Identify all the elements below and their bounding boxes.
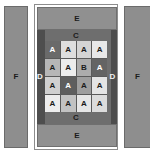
grid-cell-r3-c3: A	[77, 77, 92, 94]
bottom-bar-e: E	[37, 124, 117, 147]
grid-cell-r2-c2: A	[61, 59, 76, 76]
left-panel-label: F	[5, 7, 27, 147]
top-bar-label: E	[38, 8, 116, 29]
right-panel-label: F	[125, 7, 150, 147]
right-panel: F	[124, 6, 150, 148]
grid-cell-r1-c1: A	[45, 41, 60, 58]
grid-cell-r3-c4: A	[92, 77, 107, 94]
grid-cell-r4-c2: A	[61, 95, 76, 112]
grid-cell-r4-c4: A	[92, 95, 107, 112]
top-bar-e: E	[37, 7, 117, 30]
grid-cell-r3-c1: A	[45, 77, 60, 94]
grid-cell-r3-c2: A	[61, 77, 76, 94]
middle-panel: E C C D D AAAAAABAAAAAAAAA E	[34, 4, 118, 150]
grid-cell-r4-c3: A	[77, 95, 92, 112]
grid-cell-r2-c3: B	[77, 59, 92, 76]
figure-canvas: F E C C D D AAAAAABAAAAAAAAA E F	[0, 0, 150, 154]
grid-cell-r2-c4: A	[92, 59, 107, 76]
grid-cell-r1-c3: A	[77, 41, 92, 58]
grid-cell-r1-c2: A	[61, 41, 76, 58]
cell-grid: AAAAAABAAAAAAAAA	[45, 41, 107, 112]
left-panel: F	[4, 6, 28, 148]
grid-cell-r2-c1: A	[45, 59, 60, 76]
grid-cell-r4-c1: A	[45, 95, 60, 112]
grid-cell-r1-c4: A	[92, 41, 107, 58]
bottom-bar-label: E	[38, 125, 116, 146]
